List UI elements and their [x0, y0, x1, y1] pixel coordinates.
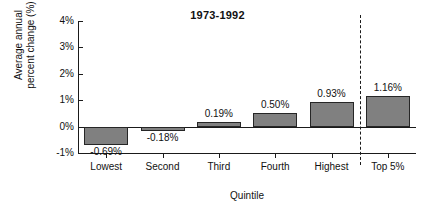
- x-axis-title: Quintile: [78, 190, 416, 201]
- y-tick-label: 4%: [42, 16, 74, 26]
- y-tick-mark: [79, 47, 83, 48]
- bar-value-label: -0.69%: [76, 147, 136, 157]
- group-divider-line: [360, 15, 361, 165]
- y-tick-mark: [79, 100, 83, 101]
- x-tick-mark: [219, 154, 220, 158]
- plot-area: 4%3%2%1%0%-1% -0.69%-0.18%0.19%0.50%0.93…: [78, 21, 416, 153]
- bar-value-label: 0.93%: [302, 89, 362, 99]
- category-label-top-5: Top 5%: [354, 161, 422, 172]
- y-axis-line: [78, 21, 79, 153]
- bar-value-label: 0.19%: [189, 109, 249, 119]
- bar[interactable]: [141, 127, 185, 132]
- y-axis-title: Average annual percent change (%): [13, 0, 37, 116]
- bar[interactable]: [310, 102, 354, 127]
- bar-value-label: -0.18%: [133, 133, 193, 143]
- y-tick-mark: [79, 21, 83, 22]
- y-tick-label: -1%: [42, 148, 74, 158]
- bar[interactable]: [197, 122, 241, 127]
- y-tick-label: 2%: [42, 69, 74, 79]
- x-tick-mark: [332, 154, 333, 158]
- y-tick-label: 3%: [42, 42, 74, 52]
- bar[interactable]: [253, 113, 297, 126]
- x-tick-mark: [163, 154, 164, 158]
- y-tick-mark: [79, 127, 83, 128]
- bar-value-label: 1.16%: [358, 83, 418, 93]
- y-tick-label: 0%: [42, 122, 74, 132]
- y-tick-label: 1%: [42, 95, 74, 105]
- bar[interactable]: [84, 127, 128, 145]
- zero-baseline: [78, 127, 416, 128]
- x-tick-mark: [275, 154, 276, 158]
- bar-chart-figure: 1973-1992 Average annual percent change …: [0, 0, 435, 218]
- y-tick-mark: [79, 74, 83, 75]
- bar-value-label: 0.50%: [245, 100, 305, 110]
- x-tick-mark: [388, 154, 389, 158]
- bar[interactable]: [366, 96, 410, 127]
